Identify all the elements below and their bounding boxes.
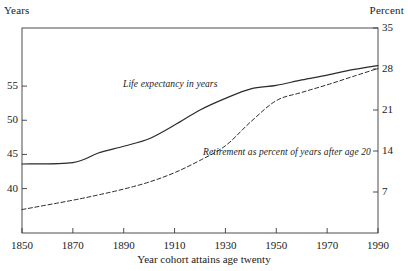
x-tick-1950: 1950 — [254, 239, 298, 251]
x-tick-1890: 1890 — [102, 239, 146, 251]
y-tick-right-21: 21 — [382, 103, 408, 115]
y-tick-left-40: 40 — [0, 182, 18, 194]
annotation-retirement: Retirement as percent of years after age… — [203, 147, 371, 157]
x-tick-1910: 1910 — [153, 239, 197, 251]
series-line-1 — [22, 68, 378, 209]
x-tick-1870: 1870 — [51, 239, 95, 251]
x-tick-1990: 1990 — [356, 239, 400, 251]
y-tick-right-28: 28 — [382, 62, 408, 74]
x-tick-1930: 1930 — [203, 239, 247, 251]
y-tick-right-7: 7 — [382, 185, 408, 197]
x-axis-title: Year cohort attains age twenty — [0, 253, 408, 265]
plot-area — [0, 0, 408, 271]
tick-marks — [22, 28, 378, 233]
axis-frame — [22, 28, 378, 233]
chart-figure: Years Percent 40455055714212835185018701… — [0, 0, 408, 271]
y-tick-left-45: 45 — [0, 147, 18, 159]
x-tick-1970: 1970 — [305, 239, 349, 251]
y-tick-right-35: 35 — [382, 21, 408, 33]
y-tick-left-50: 50 — [0, 113, 18, 125]
x-tick-1850: 1850 — [0, 239, 44, 251]
y-tick-left-55: 55 — [0, 79, 18, 91]
y-tick-right-14: 14 — [382, 144, 408, 156]
annotation-life-expectancy: Life expectancy in years — [123, 79, 217, 89]
